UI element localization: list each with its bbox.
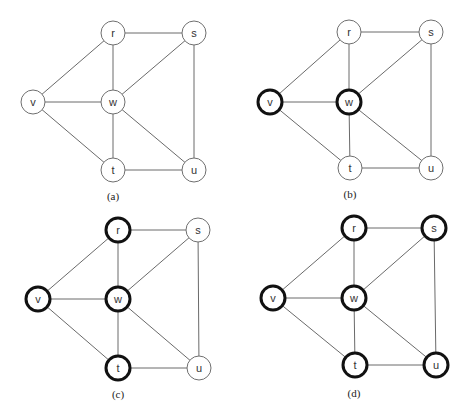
- node-v: v: [26, 287, 50, 311]
- node-label: u: [191, 164, 197, 176]
- panel-b: rsvwtu(b): [258, 20, 443, 201]
- edge-r-v: [273, 228, 354, 298]
- panel-c: rsvwtu(c): [26, 218, 211, 401]
- node-u: u: [187, 356, 211, 380]
- edge-v-t: [38, 299, 118, 368]
- edge-w-u: [349, 102, 431, 168]
- panel-d: rsvwtu(d): [261, 216, 448, 400]
- node-label: s: [431, 222, 437, 234]
- node-label: w: [108, 96, 117, 108]
- node-label: r: [111, 27, 115, 39]
- node-label: u: [433, 359, 439, 371]
- node-label: w: [349, 292, 358, 304]
- edge-w-u: [118, 299, 199, 368]
- panel-caption: (b): [344, 188, 357, 201]
- node-label: s: [428, 26, 434, 38]
- node-w: w: [106, 287, 130, 311]
- edge-v-t: [273, 298, 355, 365]
- node-label: v: [30, 96, 36, 108]
- node-r: r: [106, 218, 130, 242]
- edge-v-t: [33, 102, 113, 170]
- node-s: s: [422, 216, 446, 240]
- panel-a: rsvwtu(a): [21, 21, 206, 203]
- node-label: t: [353, 359, 356, 371]
- edge-r-v: [270, 32, 349, 102]
- node-label: r: [352, 222, 356, 234]
- edge-r-v: [38, 230, 118, 299]
- node-label: t: [348, 162, 351, 174]
- node-label: s: [195, 224, 201, 236]
- edge-r-v: [33, 33, 113, 102]
- node-label: v: [267, 96, 273, 108]
- node-label: w: [344, 96, 353, 108]
- node-t: t: [338, 156, 362, 180]
- node-label: u: [428, 162, 434, 174]
- node-v: v: [21, 90, 45, 114]
- node-w: w: [101, 90, 125, 114]
- panel-caption: (d): [348, 387, 361, 400]
- node-r: r: [342, 216, 366, 240]
- node-t: t: [106, 356, 130, 380]
- node-s: s: [419, 20, 443, 44]
- edge-s-u: [198, 230, 199, 368]
- node-label: s: [191, 27, 197, 39]
- panel-caption: (a): [107, 190, 120, 203]
- node-label: v: [35, 293, 41, 305]
- edge-s-w: [118, 230, 198, 299]
- node-w: w: [337, 90, 361, 114]
- edge-w-u: [113, 102, 194, 170]
- node-t: t: [343, 353, 367, 377]
- node-label: r: [116, 224, 120, 236]
- edge-s-u: [434, 228, 436, 365]
- edge-s-w: [354, 228, 434, 298]
- node-label: v: [270, 292, 276, 304]
- node-r: r: [101, 21, 125, 45]
- edge-s-w: [349, 32, 431, 102]
- node-s: s: [182, 21, 206, 45]
- panels-root: rsvwtu(a)rsvwtu(b)rsvwtu(c)rsvwtu(d): [21, 20, 448, 401]
- node-label: r: [347, 26, 351, 38]
- edge-v-t: [270, 102, 350, 168]
- node-r: r: [337, 20, 361, 44]
- node-v: v: [258, 90, 282, 114]
- node-label: t: [111, 164, 114, 176]
- node-label: w: [113, 293, 122, 305]
- graph-figure: rsvwtu(a)rsvwtu(b)rsvwtu(c)rsvwtu(d): [0, 0, 468, 417]
- panel-caption: (c): [112, 388, 125, 401]
- node-s: s: [186, 218, 210, 242]
- node-w: w: [342, 286, 366, 310]
- node-t: t: [101, 158, 125, 182]
- edge-w-u: [354, 298, 436, 365]
- node-u: u: [424, 353, 448, 377]
- node-v: v: [261, 286, 285, 310]
- node-label: u: [196, 362, 202, 374]
- node-u: u: [419, 156, 443, 180]
- edge-s-w: [113, 33, 194, 102]
- node-label: t: [116, 362, 119, 374]
- node-u: u: [182, 158, 206, 182]
